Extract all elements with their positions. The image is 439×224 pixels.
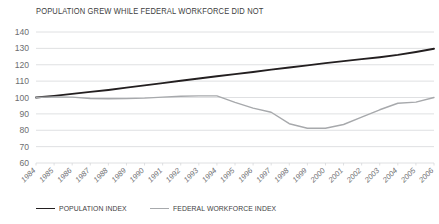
x-axis-tick-label: 1993	[182, 166, 201, 185]
y-axis-tick-label: 130	[15, 43, 30, 53]
x-axis-tick-label: 1999	[290, 166, 309, 185]
series-line-federal-workforce-index	[36, 96, 434, 128]
x-axis-tick-label: 2003	[362, 166, 382, 186]
chart-legend: POPULATION INDEX FEDERAL WORKFORCE INDEX	[36, 204, 299, 213]
legend-item-population-index: POPULATION INDEX	[36, 204, 134, 213]
x-axis-tick-label: 1988	[91, 166, 110, 185]
x-axis-tick-label: 2006	[416, 166, 436, 186]
gridlines-group	[36, 32, 434, 163]
x-axis-tick-label: 1995	[218, 166, 237, 185]
y-axis-tick-label: 80	[19, 125, 29, 135]
legend-label-federal-workforce-index: FEDERAL WORKFORCE INDEX	[173, 204, 276, 213]
y-axis-tick-label: 140	[15, 27, 30, 37]
x-axis-tick-label: 1986	[55, 166, 74, 185]
x-axis-tick-label: 1991	[146, 166, 164, 184]
x-axis-tick-label: 2002	[344, 166, 364, 186]
chart-container: POPULATION GREW WHILE FEDERAL WORKFORCE …	[0, 0, 439, 224]
y-axis-tick-label: 60	[19, 158, 29, 168]
chart-plot-area: 60708090100110120130140 1984198519861987…	[0, 0, 439, 224]
x-axis-labels: 1984198519861987198819891990199119921993…	[19, 163, 436, 185]
x-axis-tick-label: 1990	[128, 166, 147, 185]
x-axis-tick-label: 1996	[236, 166, 255, 185]
x-axis-tick-label: 2004	[380, 166, 399, 185]
x-axis-tick-label: 2001	[326, 166, 345, 185]
x-axis-tick-label: 1989	[110, 166, 129, 185]
x-axis-tick-label: 1987	[73, 166, 92, 185]
x-axis-tick-label: 1998	[272, 166, 291, 185]
legend-item-federal-workforce-index: FEDERAL WORKFORCE INDEX	[150, 204, 288, 213]
y-axis-tick-label: 70	[19, 142, 29, 152]
x-axis-tick-label: 1984	[19, 166, 37, 184]
x-axis-tick-label: 1985	[37, 166, 56, 185]
y-axis-tick-label: 120	[15, 60, 30, 70]
x-axis-tick-label: 2005	[398, 166, 418, 186]
series-line-population-index	[36, 49, 434, 98]
x-axis-tick-label: 1992	[164, 166, 183, 185]
y-axis-tick-label: 90	[19, 109, 29, 119]
x-axis-tick-label: 1994	[200, 166, 218, 184]
legend-swatch-federal-workforce-index	[150, 208, 169, 209]
series-group	[36, 49, 434, 129]
y-axis-tick-label: 110	[15, 76, 29, 86]
legend-swatch-population-index	[36, 208, 55, 209]
legend-label-population-index: POPULATION INDEX	[59, 204, 127, 213]
y-axis-tick-label: 100	[15, 93, 30, 103]
x-axis-tick-label: 2000	[308, 166, 328, 186]
x-axis-tick-label: 1997	[254, 166, 273, 185]
y-axis-labels: 60708090100110120130140	[15, 27, 30, 168]
